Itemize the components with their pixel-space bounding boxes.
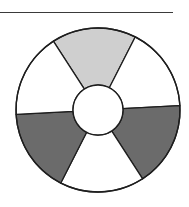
inner-circle: [73, 85, 123, 135]
segmented-ring-diagram: [0, 0, 189, 207]
